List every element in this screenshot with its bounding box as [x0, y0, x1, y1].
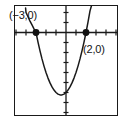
graph-screenshot: (−3,0) (2,0) — [0, 0, 124, 125]
right-intercept-label: (2,0) — [83, 44, 105, 55]
left-intercept-label: (−3,0) — [9, 10, 37, 21]
marked-point-right-intercept — [83, 29, 90, 36]
marked-point-left-intercept — [33, 29, 40, 36]
